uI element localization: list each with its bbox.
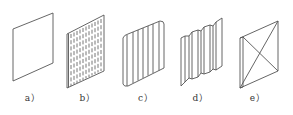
trapezoidal-corrugated-panel-drawing [181,18,222,86]
panel-label-b: b） [80,91,97,104]
panel-label-c: c） [138,91,154,104]
panel-label-e: e） [250,91,266,104]
cross-braced-panel-drawing [240,21,278,88]
panel-label-a: a） [25,91,41,104]
panel-types-figure: a） b） c） d） e） [0,0,293,115]
panel-label-d: d） [193,91,210,104]
flat-panel-drawing [13,13,53,81]
perforated-panel-drawing [67,15,104,88]
corrugated-panel-drawing [123,21,164,86]
